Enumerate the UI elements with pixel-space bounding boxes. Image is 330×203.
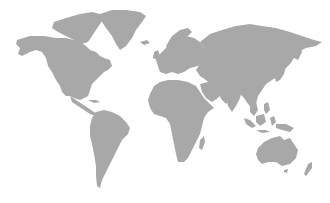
sulawesi [270,116,276,126]
sumatra [244,118,256,128]
philippines [264,102,270,114]
madagascar [199,136,205,150]
new-guinea [276,124,294,132]
iceland [140,40,150,45]
tasmania [284,169,288,173]
world-map [0,0,330,203]
india [226,84,242,112]
south-america [90,110,130,188]
java [256,130,270,133]
southeast-asia [250,102,258,116]
greenland [100,10,146,50]
borneo [256,114,266,126]
north-america [16,36,112,100]
central-america [70,96,98,116]
new-zealand [304,162,312,176]
world-map-svg [0,0,330,203]
australia [256,136,298,166]
caribbean [88,100,100,103]
